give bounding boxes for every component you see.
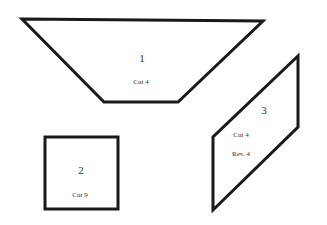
piece-1-number: 1: [139, 52, 145, 64]
piece-3-number: 3: [261, 104, 267, 116]
piece-3-parallelogram: [213, 56, 298, 210]
piece-3-reverse-label: Rev. 4: [232, 150, 250, 158]
piece-2-number: 2: [78, 164, 84, 176]
piece-2-cut-label: Cut 9: [72, 191, 87, 199]
piece-1-cut-label: Cut 4: [133, 78, 148, 86]
piece-3-cut-label: Cut 4: [233, 131, 248, 139]
pattern-diagram: [0, 0, 327, 225]
